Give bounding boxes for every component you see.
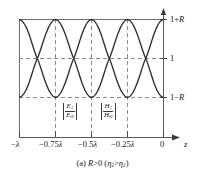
abs-bar-right <box>115 103 116 120</box>
fraction-h: H1 Hi0 <box>102 103 114 120</box>
plot-frame <box>19 12 172 138</box>
x-tick-label-05lambda: −0.5λ <box>78 140 97 149</box>
x-tick-label-zero: 0 <box>160 140 164 149</box>
fraction-h-numerator: H1 <box>104 103 113 111</box>
y-tick-label-lower: 1−R <box>170 93 184 102</box>
y-tick-label-upper: 1+R <box>170 15 184 24</box>
x-tick-label-lambda: −λ <box>11 140 19 149</box>
x-tick-label-025lambda: −0.25λ <box>111 140 134 149</box>
y-tick-label-mid: 1 <box>170 54 174 63</box>
x-axis-name: z <box>184 140 187 149</box>
annotation-h-ratio: H1 Hi0 <box>100 103 116 120</box>
x-tick-label-075lambda: −0.75λ <box>39 140 62 149</box>
fraction-e-numerator: E1 <box>66 103 74 111</box>
plot-canvas <box>0 0 205 179</box>
standing-wave-figure: 1+R 1 1−R −λ −0.75λ −0.5λ −0.25λ 0 z E1 … <box>0 0 205 179</box>
figure-caption: (a) R>0 (η2>η1) <box>0 158 205 168</box>
abs-bar-right <box>76 103 77 120</box>
fraction-h-denominator: Hi0 <box>103 111 113 120</box>
x-axis-ticks <box>20 131 164 137</box>
annotation-e-ratio: E1 Ei0 <box>62 103 78 120</box>
fraction-e: E1 Ei0 <box>64 103 76 120</box>
fraction-e-denominator: Ei0 <box>65 111 75 120</box>
